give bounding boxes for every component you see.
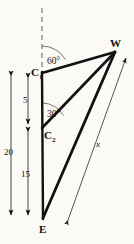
geometry-figure: C1 C2 E W 60° 30° 20 5 15 x <box>0 0 134 244</box>
label-c2-subscript: 2 <box>52 136 56 144</box>
label-c2-base: C <box>44 129 52 141</box>
label-angle-30: 30° <box>47 110 60 120</box>
label-dimension-20: 20 <box>4 148 13 157</box>
label-e-base: E <box>39 223 46 235</box>
label-point-w: W <box>110 38 121 49</box>
label-point-c1: C1 <box>31 67 42 81</box>
label-dimension-x: x <box>96 140 100 149</box>
label-dimension-5: 5 <box>23 96 28 105</box>
label-point-e: E <box>39 224 46 235</box>
label-c1-subscript: 1 <box>39 73 43 81</box>
segment-c1-e <box>42 72 43 219</box>
label-dimension-15: 15 <box>21 170 30 179</box>
label-w-base: W <box>110 37 121 49</box>
label-angle-60: 60° <box>47 57 60 67</box>
label-point-c2: C2 <box>44 130 55 144</box>
label-c1-base: C <box>31 66 39 78</box>
